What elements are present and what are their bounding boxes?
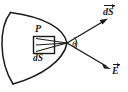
label-vector-e: E — [112, 62, 119, 76]
label-area-element-ds: dS — [33, 54, 43, 64]
label-angle-theta: θ — [72, 40, 76, 49]
physics-flux-diagram: P dS θ dS E — [0, 0, 128, 92]
label-vector-e-text: E — [112, 66, 119, 76]
surface-left-arc — [2, 13, 13, 85]
vector-arrow-overbar-ds — [103, 3, 114, 7]
label-point-p: P — [35, 24, 41, 34]
vector-arrow-overbar-e — [112, 62, 119, 66]
label-vector-ds: dS — [103, 3, 114, 17]
label-vector-ds-text: dS — [103, 7, 114, 17]
cone-ray-upper — [36, 39, 67, 44]
